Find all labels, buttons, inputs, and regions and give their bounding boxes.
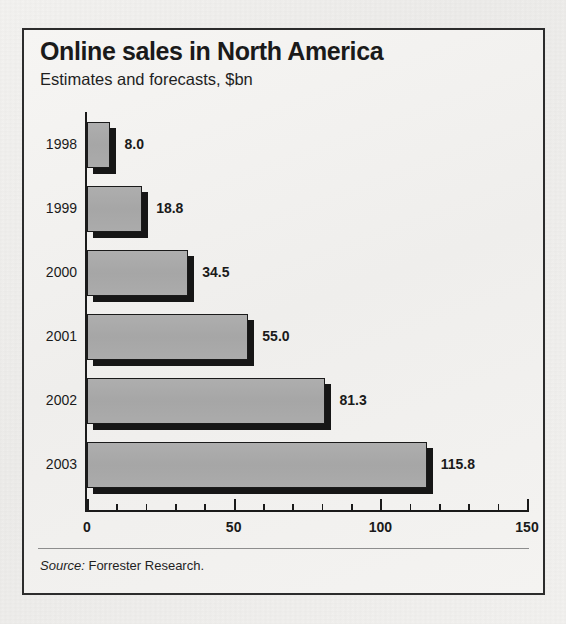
source-note: Source: Forrester Research. [40,558,204,573]
value-label-2001: 55.0 [262,328,289,344]
x-axis-tick-label-150: 150 [507,519,547,535]
x-axis-minor-tick [204,504,206,510]
bar-1998[interactable] [87,122,110,168]
value-label-2003: 115.8 [441,456,475,472]
x-axis-minor-tick [175,504,177,510]
category-label-2000: 2000 [31,264,77,280]
category-label-2001: 2001 [31,328,77,344]
bar-2003[interactable] [87,442,427,488]
x-axis-minor-tick [468,504,470,510]
bar-2001[interactable] [87,314,248,360]
category-label-1998: 1998 [31,136,77,152]
x-axis-tick-50 [234,499,236,510]
x-axis-tick-label-0: 0 [67,519,107,535]
x-axis-line [85,510,529,512]
category-label-1999: 1999 [31,200,77,216]
x-axis-minor-tick [351,504,353,510]
source-value: Forrester Research. [88,558,204,573]
chart-figure: Online sales in North America Estimates … [22,28,545,595]
source-label: Source: [40,558,85,573]
x-axis-tick-0 [87,499,89,510]
bar-2002[interactable] [87,378,325,424]
x-axis-minor-tick [146,504,148,510]
x-axis-minor-tick [292,504,294,510]
category-label-2002: 2002 [31,392,77,408]
x-axis-tick-100 [380,499,382,510]
x-axis-minor-tick [116,504,118,510]
x-axis-tick-label-100: 100 [360,519,400,535]
value-label-1998: 8.0 [124,136,143,152]
x-axis-minor-tick [439,504,441,510]
value-label-2002: 81.3 [339,392,366,408]
x-axis-minor-tick [410,504,412,510]
x-axis-minor-tick [498,504,500,510]
plot-area: 19988.0199918.8200034.5200155.0200281.32… [24,30,543,593]
x-axis-minor-tick [322,504,324,510]
x-axis-minor-tick [263,504,265,510]
x-axis-tick-label-50: 50 [214,519,254,535]
x-axis-tick-150 [527,499,529,510]
category-label-2003: 2003 [31,456,77,472]
source-divider [38,548,529,549]
bar-1999[interactable] [87,186,142,232]
bar-2000[interactable] [87,250,188,296]
y-axis-line [85,112,87,510]
value-label-1999: 18.8 [156,200,183,216]
value-label-2000: 34.5 [202,264,229,280]
